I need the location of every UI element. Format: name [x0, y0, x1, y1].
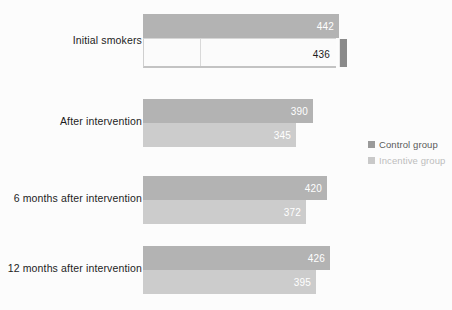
bar-chart: Initial smokers 442 436 After interventi…: [0, 0, 452, 310]
bar-value-label: 372: [284, 208, 301, 218]
bar-group: 6 months after intervention 420 372: [0, 176, 452, 224]
scan-streak: [200, 39, 201, 66]
legend-label: Incentive group: [379, 155, 445, 166]
bar-control-group[interactable]: 420: [143, 176, 327, 200]
bar-value-label: 420: [305, 184, 322, 194]
bar-incentive-group[interactable]: 395: [143, 270, 316, 294]
bar-end-cap: [339, 39, 347, 67]
square-marker-icon: [368, 141, 375, 148]
bar-value-label: 426: [308, 254, 325, 264]
category-label: 6 months after intervention: [0, 192, 142, 204]
chart-legend: Control group Incentive group: [368, 138, 445, 170]
bar-control-group[interactable]: 390: [143, 99, 313, 123]
plot-area: Initial smokers 442 436 After interventi…: [0, 0, 452, 310]
bar-value-label: 390: [291, 107, 308, 117]
category-label: After intervention: [0, 115, 142, 127]
category-label: Initial smokers: [0, 34, 142, 46]
bar-group: 12 months after intervention 426 395: [0, 246, 452, 294]
bar-value-label: 395: [294, 278, 311, 288]
legend-label: Control group: [379, 139, 438, 150]
category-label: 12 months after intervention: [0, 262, 142, 274]
bar-control-group[interactable]: 426: [143, 246, 330, 270]
bar-group: Initial smokers 442 436: [0, 14, 452, 70]
bar-value-label: 345: [274, 131, 291, 141]
bar-value-label: 442: [317, 22, 334, 32]
bar-incentive-group[interactable]: 345: [143, 123, 296, 147]
bar-control-group[interactable]: 442: [143, 14, 339, 38]
square-marker-icon: [368, 157, 375, 164]
bar-value-label: 436: [313, 50, 330, 60]
legend-item-control-group[interactable]: Control group: [368, 138, 445, 151]
bar-incentive-group[interactable]: 372: [143, 200, 306, 224]
legend-item-incentive-group[interactable]: Incentive group: [368, 154, 445, 167]
bar-incentive-group[interactable]: 436: [143, 38, 336, 68]
